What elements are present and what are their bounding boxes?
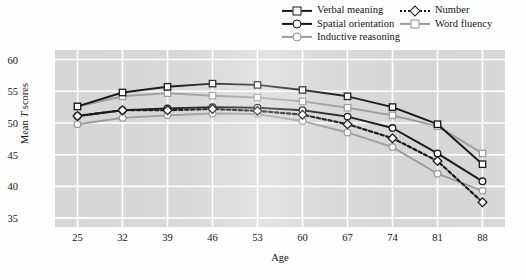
legend-item-word-fluency: Word fluency [400, 17, 492, 30]
legend-key-diamond-dark-dotted-icon [400, 4, 430, 17]
legend-label: Inductive reasoning [317, 32, 400, 43]
figure: Verbal meaning Spatial orientation Induc… [0, 0, 526, 279]
chart-legend: Verbal meaning Spatial orientation Induc… [282, 4, 524, 44]
x-tick-label: 53 [238, 232, 278, 243]
y-axis-title-suffix: scores [19, 83, 30, 112]
legend-item-inductive-reasoning: Inductive reasoning [282, 30, 400, 43]
legend-key-square-dark-solid-icon [282, 4, 312, 17]
x-tick-label: 81 [418, 232, 458, 243]
chart-canvas [55, 50, 505, 227]
legend-key-circle-dark-solid-icon [282, 17, 312, 30]
legend-item-number: Number [400, 4, 492, 17]
y-axis-title-prefix: Mean [19, 118, 30, 145]
legend-column-2: Number Word fluency [400, 4, 492, 30]
plot-area [55, 50, 505, 227]
legend-label: Spatial orientation [317, 19, 394, 30]
y-tick-label: 60 [0, 54, 18, 65]
x-tick-label: 25 [58, 232, 98, 243]
y-tick-label: 45 [0, 149, 18, 160]
x-tick-label: 46 [193, 232, 233, 243]
legend-label: Word fluency [435, 19, 492, 30]
x-tick-label: 60 [283, 232, 323, 243]
y-tick-label: 40 [0, 181, 18, 192]
y-axis-title-italic: T [19, 112, 30, 118]
x-axis-title: Age [55, 252, 505, 263]
x-tick-label: 67 [328, 232, 368, 243]
legend-item-spatial-orientation: Spatial orientation [282, 17, 400, 30]
legend-column-1: Verbal meaning Spatial orientation Induc… [282, 4, 400, 44]
y-tick-label: 55 [0, 86, 18, 97]
x-tick-label: 88 [463, 232, 503, 243]
legend-label: Number [435, 5, 469, 16]
x-tick-label: 39 [148, 232, 188, 243]
y-tick-label: 35 [0, 213, 18, 224]
x-tick-label: 32 [103, 232, 143, 243]
legend-label: Verbal meaning [317, 5, 383, 16]
x-tick-label: 74 [373, 232, 413, 243]
legend-key-square-gray-solid-icon [400, 17, 430, 30]
y-axis-title: Mean T scores [19, 68, 30, 160]
y-tick-label: 50 [0, 117, 18, 128]
legend-item-verbal-meaning: Verbal meaning [282, 4, 400, 17]
legend-key-circle-gray-solid-icon [282, 30, 312, 43]
